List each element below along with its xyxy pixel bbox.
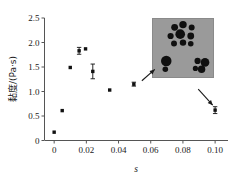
inset-particle (161, 56, 172, 67)
y-tick-label: 2.5 (28, 13, 40, 23)
x-tick-label: 0.04 (111, 145, 127, 155)
y-axis-ticks: 00.51.01.52.02.5 (28, 13, 44, 146)
inset-particle (193, 66, 198, 71)
inset-particle (171, 24, 178, 31)
x-tick-label: 0.06 (143, 145, 159, 155)
figure-viscosity-vs-s: 00.51.01.52.02.5 00.020.040.060.080.10 s… (0, 0, 235, 182)
data-point (132, 82, 135, 85)
inset-particle (201, 58, 210, 67)
data-point (61, 109, 64, 112)
data-point (213, 108, 216, 111)
inset-particle (188, 41, 194, 47)
micrograph-inset (152, 18, 214, 78)
inset-particle (194, 58, 200, 64)
data-point (52, 130, 55, 133)
y-tick-label: 0.5 (28, 111, 40, 121)
inset-particle (163, 67, 169, 73)
inset-particle (168, 33, 174, 39)
y-tick-label: 0 (35, 136, 40, 146)
x-tick-label: 0 (52, 145, 57, 155)
y-tick-label: 1.0 (28, 87, 40, 97)
x-tick-label: 0.08 (175, 145, 191, 155)
inset-particle (175, 29, 185, 39)
inset-particle (180, 39, 186, 45)
data-point (108, 88, 111, 91)
inset-particle (198, 66, 205, 73)
inset-particle (187, 33, 194, 40)
inset-particle (179, 21, 186, 28)
x-tick-label: 0.10 (207, 145, 223, 155)
data-point (69, 66, 72, 69)
x-tick-label: 0.02 (78, 145, 94, 155)
y-tick-label: 1.5 (28, 62, 40, 72)
x-axis-title: s (134, 164, 138, 174)
data-point (84, 47, 87, 50)
inset-particle (189, 25, 195, 31)
y-tick-label: 2.0 (28, 38, 40, 48)
x-axis-ticks: 00.020.040.060.080.10 (52, 141, 224, 155)
data-point (77, 49, 80, 52)
data-point (91, 70, 94, 73)
scatter-plot: 00.51.01.52.02.5 00.020.040.060.080.10 s… (0, 0, 235, 182)
y-axis-title: 黏度/(Pa·s) (7, 56, 18, 102)
inset-particle (171, 41, 177, 47)
